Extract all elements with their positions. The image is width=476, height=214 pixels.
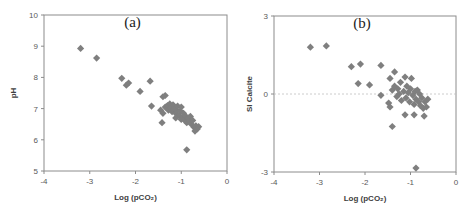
data-point-diamond bbox=[401, 111, 408, 118]
data-point-diamond bbox=[348, 63, 355, 70]
x-tick-label: -4 bbox=[40, 177, 48, 186]
data-point-diamond bbox=[411, 111, 418, 118]
data-point-diamond bbox=[77, 45, 84, 52]
data-point-diamond bbox=[357, 61, 364, 68]
data-point-diamond bbox=[408, 75, 415, 82]
data-point-diamond bbox=[377, 62, 384, 69]
x-axis-label: Log (pCO₂) bbox=[114, 193, 157, 202]
y-tick-label: 5 bbox=[34, 167, 39, 176]
y-tick-label: 10 bbox=[29, 11, 38, 20]
panel-label: (a) bbox=[124, 14, 141, 31]
data-point-diamond bbox=[389, 123, 396, 130]
data-point-diamond bbox=[397, 79, 404, 86]
x-tick-label: -3 bbox=[86, 177, 94, 186]
y-tick-label: 7 bbox=[34, 105, 39, 114]
x-tick-label: -2 bbox=[361, 178, 369, 187]
data-point-diamond bbox=[421, 113, 428, 120]
data-point-diamond bbox=[183, 146, 190, 153]
data-point-diamond bbox=[147, 78, 154, 85]
x-tick-label: -1 bbox=[178, 177, 186, 186]
y-axis-label: SI Calcite bbox=[245, 75, 254, 112]
x-tick-label: -2 bbox=[132, 177, 140, 186]
chart-figure: -4-3-2-105678910Log (pCO₂)pH(a)-4-3-2-10… bbox=[0, 0, 476, 214]
x-tick-label: 0 bbox=[454, 178, 459, 187]
x-tick-label: -3 bbox=[316, 178, 324, 187]
y-tick-label: 3 bbox=[264, 12, 269, 21]
data-point-diamond bbox=[93, 54, 100, 61]
data-point-diamond bbox=[323, 42, 330, 49]
data-point-diamond bbox=[412, 165, 419, 172]
data-point-diamond bbox=[148, 103, 155, 110]
x-axis-label: Log (pCO₂) bbox=[344, 194, 387, 203]
y-tick-label: -3 bbox=[261, 168, 269, 177]
x-tick-label: -4 bbox=[270, 178, 278, 187]
x-tick-label: -1 bbox=[407, 178, 415, 187]
scatter-panel-a: -4-3-2-105678910Log (pCO₂)pH(a) bbox=[9, 11, 230, 202]
data-point-diamond bbox=[401, 74, 408, 81]
plot-area bbox=[44, 15, 227, 171]
data-point-diamond bbox=[158, 119, 165, 126]
data-point-diamond bbox=[366, 81, 373, 88]
y-tick-label: 0 bbox=[264, 90, 269, 99]
data-point-diamond bbox=[377, 92, 384, 99]
data-point-diamond bbox=[136, 88, 143, 95]
scatter-panel-b: -4-3-2-10-303Log (pCO₂)SI Calcite(b) bbox=[245, 12, 459, 203]
data-point-diamond bbox=[355, 80, 362, 87]
data-point-diamond bbox=[118, 75, 125, 82]
y-axis-label: pH bbox=[9, 87, 18, 98]
data-point-diamond bbox=[391, 68, 398, 75]
data-point-diamond bbox=[386, 75, 393, 82]
x-tick-label: 0 bbox=[225, 177, 230, 186]
panel-label: (b) bbox=[353, 15, 371, 32]
plot-area bbox=[274, 16, 456, 172]
data-point-diamond bbox=[307, 44, 314, 51]
y-tick-label: 8 bbox=[34, 73, 39, 82]
y-tick-label: 6 bbox=[34, 136, 39, 145]
y-tick-label: 9 bbox=[34, 42, 39, 51]
